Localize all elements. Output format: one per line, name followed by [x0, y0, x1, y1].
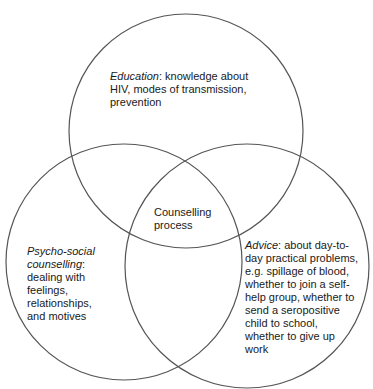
education-label: Education: knowledge about HIV, modes of… — [110, 70, 290, 109]
education-title: Education — [110, 70, 159, 82]
advice-title: Advice — [245, 239, 278, 251]
advice-label: Advice: about day-to- day practical prob… — [245, 239, 370, 356]
counselling-process-label: Counselling process — [154, 206, 234, 232]
advice-text: : about day-to- day practical problems, … — [245, 239, 358, 355]
psycho-social-label: Psycho-social counselling: dealing with … — [27, 245, 127, 323]
